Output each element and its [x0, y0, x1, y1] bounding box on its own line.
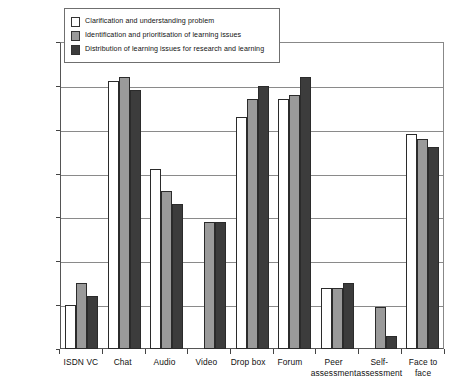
bar — [258, 86, 269, 349]
x-axis-tick-cell — [273, 349, 316, 354]
x-axis-tick-mark — [145, 349, 146, 354]
bar — [428, 147, 439, 349]
x-axis-category-label: Forum — [269, 357, 311, 379]
bar — [236, 117, 247, 349]
x-axis-category-label: ISDN VC — [60, 357, 102, 379]
bar-group — [145, 42, 188, 349]
bar — [172, 204, 183, 349]
x-axis-category-label-line: Self- — [356, 357, 402, 368]
x-axis-category-label-line: Forum — [269, 357, 311, 368]
x-axis-tick-cell — [401, 349, 444, 354]
bar — [87, 296, 98, 349]
bar — [108, 81, 119, 349]
x-axis-tick-mark — [102, 349, 103, 354]
x-axis-category-label: Face toface — [402, 357, 444, 379]
x-axis-tick-cell — [359, 349, 402, 354]
bar — [130, 90, 141, 349]
x-axis-category-label: Self-assessment — [356, 357, 402, 379]
bar-group — [273, 42, 316, 349]
bar — [321, 288, 332, 349]
bar — [343, 283, 354, 349]
x-axis-category-label: Chat — [102, 357, 144, 379]
x-axis-ticks — [60, 349, 444, 354]
legend-item: Clarification and understanding problem — [71, 15, 273, 28]
x-axis-category-label-line: assessment — [356, 368, 402, 379]
bar — [247, 99, 258, 349]
legend-swatch-icon — [71, 45, 80, 55]
x-axis-category-label-line: face — [402, 368, 444, 379]
x-axis-category-label: Audio — [144, 357, 186, 379]
bar — [150, 169, 161, 349]
bar — [386, 336, 397, 349]
bars-layer — [60, 42, 444, 349]
bar — [417, 139, 428, 350]
x-axis-tick-mark — [59, 349, 60, 354]
x-axis-labels: ISDN VCChatAudioVideoDrop boxForumPeeras… — [60, 357, 444, 379]
bar-group — [60, 42, 103, 349]
x-axis-tick-mark — [315, 349, 316, 354]
bar — [119, 77, 130, 349]
bar-group — [359, 42, 402, 349]
legend-item: Identification and prioritisation of lea… — [71, 29, 273, 42]
x-axis-tick-cell — [103, 349, 146, 354]
bar-group — [231, 42, 274, 349]
bar — [161, 191, 172, 349]
bar-group — [401, 42, 444, 349]
chart-legend: Clarification and understanding problem … — [64, 8, 280, 63]
legend-item-label: Identification and prioritisation of lea… — [85, 31, 241, 40]
x-axis-tick-cell — [231, 349, 274, 354]
x-axis-category-label-line: Peer — [311, 357, 357, 368]
x-axis-category-label: Video — [185, 357, 227, 379]
x-axis-tick-mark — [444, 349, 445, 354]
x-axis-tick-cell — [316, 349, 359, 354]
x-axis-tick-mark — [187, 349, 188, 354]
legend-swatch-icon — [71, 17, 80, 27]
x-axis-tick-mark — [273, 349, 274, 354]
bar — [278, 99, 289, 349]
bar — [215, 222, 226, 349]
x-axis-category-label-line: Video — [185, 357, 227, 368]
x-axis-tick-cell — [145, 349, 188, 354]
x-axis-category-label: Drop box — [227, 357, 269, 379]
x-axis-category-label-line: Chat — [102, 357, 144, 368]
x-axis-category-label: Peerassessment — [311, 357, 357, 379]
x-axis-category-label-line: Drop box — [227, 357, 269, 368]
x-axis-tick-cell — [60, 349, 103, 354]
bar — [76, 283, 87, 349]
x-axis-tick-mark — [230, 349, 231, 354]
bar — [332, 288, 343, 349]
x-axis-tick-mark — [358, 349, 359, 354]
bar-chart: Clarification and understanding problem … — [0, 0, 461, 391]
bar-group — [316, 42, 359, 349]
x-axis-category-label-line: assessment — [311, 368, 357, 379]
bar — [204, 222, 215, 349]
x-axis-category-label-line: ISDN VC — [60, 357, 102, 368]
bar — [375, 307, 386, 349]
legend-item: Distribution of learning issues for rese… — [71, 43, 273, 56]
bar — [300, 77, 311, 349]
bar — [65, 305, 76, 349]
legend-item-label: Distribution of learning issues for rese… — [85, 45, 264, 54]
x-axis-tick-cell — [188, 349, 231, 354]
x-axis-category-label-line: Face to — [402, 357, 444, 368]
bar — [406, 134, 417, 349]
bar-group — [103, 42, 146, 349]
bar-group — [188, 42, 231, 349]
legend-swatch-icon — [71, 31, 80, 41]
x-axis-category-label-line: Audio — [144, 357, 186, 368]
bar — [289, 95, 300, 349]
x-axis-tick-mark — [401, 349, 402, 354]
legend-item-label: Clarification and understanding problem — [85, 17, 214, 26]
